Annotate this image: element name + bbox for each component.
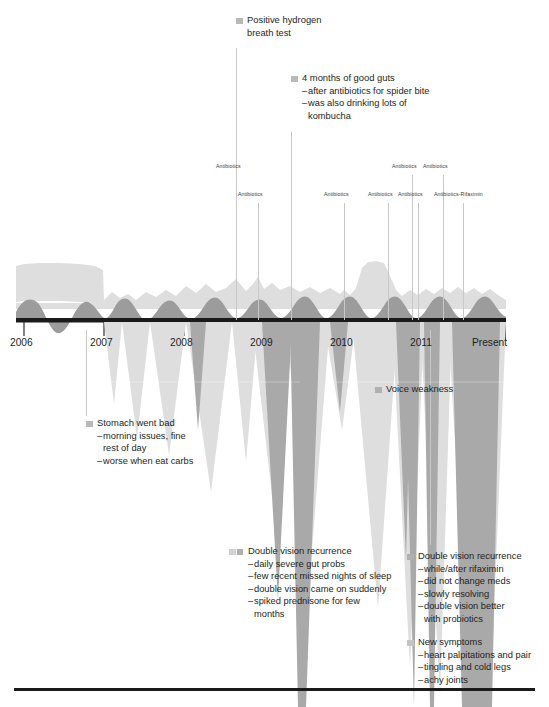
bullet-dash: – bbox=[248, 558, 253, 571]
annotation-header: 4 months of good guts bbox=[291, 72, 429, 85]
annotation-bullet: – daily severe gut probs bbox=[229, 558, 391, 571]
antibiotics-label-7: Antibiotics-Rifaximin bbox=[434, 191, 483, 197]
legend-swatch-icon bbox=[407, 554, 414, 561]
annotation-bullet: – achy joints bbox=[407, 674, 531, 687]
annotation-bullet-text: daily severe gut probs bbox=[254, 559, 345, 569]
annotation-bullet: – slowly resolving bbox=[407, 588, 522, 601]
annotation-header-text: 4 months of good guts bbox=[302, 72, 395, 83]
annotation-bullet-text: while/after rifaximin bbox=[424, 564, 504, 574]
axis-tick-label-2010: 2010 bbox=[330, 337, 353, 349]
annotation-bullet: – heart palpitations and pair bbox=[407, 649, 531, 662]
annotation-bullet-text: morning issues, fine bbox=[103, 431, 186, 441]
bullet-dash: – bbox=[418, 661, 423, 674]
annotation-bullet: – double vision came on suddenly bbox=[229, 583, 391, 596]
antibiotics-label-6: Antibiotics bbox=[423, 163, 448, 169]
bullet-dash: – bbox=[418, 588, 423, 601]
annotation-bullet-text: double vision came on suddenly bbox=[254, 584, 386, 594]
annotation-bullet-text: after antibiotics for spider bite bbox=[308, 86, 429, 96]
bullet-dash: – bbox=[418, 649, 423, 662]
time-axis-line bbox=[16, 318, 506, 323]
leader-line-antibiotic-2 bbox=[344, 203, 345, 320]
leader-line-antibiotic-0 bbox=[236, 175, 237, 320]
bullet-dash: – bbox=[302, 97, 307, 110]
axis-tick-label-2011: 2011 bbox=[410, 337, 432, 349]
annotation-header-text: Double vision recurrence bbox=[248, 545, 352, 556]
annotation-header-text: Voice weakness bbox=[386, 383, 453, 394]
annotation-bullet-text: heart palpitations and pair bbox=[424, 650, 531, 660]
annotation-continuation: rest of day bbox=[86, 442, 193, 455]
legend-swatch-icon bbox=[291, 76, 298, 83]
axis-tick-label-2007: 2007 bbox=[90, 337, 113, 349]
annotation-bullet-text: achy joints bbox=[424, 675, 468, 685]
leader-line-antibiotic-1 bbox=[258, 203, 259, 320]
annotation-header: Stomach went bad bbox=[86, 417, 193, 430]
bullet-dash: – bbox=[418, 674, 423, 687]
annotation-line-2: breath test bbox=[236, 27, 322, 40]
annotation-bullet: – double vision better bbox=[407, 600, 522, 613]
bullet-dash: – bbox=[97, 455, 102, 468]
bullet-dash: – bbox=[97, 430, 102, 443]
leader-line-stomach bbox=[86, 330, 87, 416]
legend-swatch-icon bbox=[229, 549, 236, 556]
annotation-continuation: months bbox=[229, 608, 391, 621]
annotation-stomach-went-bad: Stomach went bad – morning issues, fine … bbox=[86, 417, 193, 467]
bullet-dash: – bbox=[418, 575, 423, 588]
annotation-header: Double vision recurrence bbox=[407, 550, 522, 563]
annotation-double-vision-right: Double vision recurrence – while/after r… bbox=[407, 550, 522, 626]
annotation-bullet: – did not change meds bbox=[407, 575, 522, 588]
axis-tick-label-2006: 2006 bbox=[10, 337, 33, 349]
antibiotics-label-4: Antibiotics bbox=[392, 163, 417, 169]
antibiotics-label-0: Antibiotics bbox=[216, 163, 241, 169]
annotation-header: Voice weakness bbox=[375, 383, 453, 396]
bullet-dash: – bbox=[418, 600, 423, 613]
bullet-dash: – bbox=[248, 570, 253, 583]
axis-tick-label-2008: 2008 bbox=[170, 337, 193, 349]
annotation-bullet-text: was also drinking lots of bbox=[308, 98, 407, 108]
legend-swatch-icon bbox=[375, 387, 382, 394]
annotation-bullet: – tingling and cold legs bbox=[407, 661, 531, 674]
annotation-bullet: – after antibiotics for spider bite bbox=[291, 85, 429, 98]
annotation-bullet-text: spiked prednisone for few bbox=[254, 596, 360, 606]
annotation-new-symptoms: New symptoms – heart palpitations and pa… bbox=[407, 636, 531, 686]
bullet-dash: – bbox=[418, 563, 423, 576]
timeline-chart-canvas: Antibiotics Antibiotics Antibiotics Anti… bbox=[0, 0, 549, 707]
antibiotics-label-3: Antibiotics bbox=[368, 191, 393, 197]
antibiotics-label-2: Antibiotics bbox=[324, 191, 349, 197]
axis-tick-label-present: Present bbox=[472, 337, 507, 349]
annotation-continuation: with probiotics bbox=[407, 613, 522, 626]
annotation-bullet: – morning issues, fine bbox=[86, 430, 193, 443]
annotation-bullet: – spiked prednisone for few bbox=[229, 595, 391, 608]
leader-line-antibiotic-7 bbox=[463, 203, 464, 320]
legend-swatch-icon bbox=[86, 421, 93, 428]
annotation-bullet-text: few recent missed nights of sleep bbox=[254, 571, 391, 581]
legend-swatch-secondary-icon bbox=[237, 549, 244, 556]
axis-tick-label-2009: 2009 bbox=[250, 337, 273, 349]
annotation-bullet-text: double vision better bbox=[424, 601, 505, 611]
leader-line-antibiotic-3 bbox=[388, 203, 389, 320]
leader-line-antibiotic-5 bbox=[418, 203, 419, 320]
legend-swatch-icon bbox=[407, 640, 414, 647]
annotation-bullet-text: did not change meds bbox=[424, 576, 510, 586]
annotation-double-vision-left: Double vision recurrence – daily severe … bbox=[229, 545, 391, 621]
annotation-bullet-text: worse when eat carbs bbox=[103, 456, 193, 466]
annotation-header: Double vision recurrence bbox=[229, 545, 391, 558]
annotation-header: New symptoms bbox=[407, 636, 531, 649]
annotation-bullet: – was also drinking lots of bbox=[291, 97, 429, 110]
annotation-bullet: – worse when eat carbs bbox=[86, 455, 193, 468]
annotation-bullet-text: slowly resolving bbox=[424, 589, 489, 599]
annotation-header-text: New symptoms bbox=[418, 636, 482, 647]
annotation-bullet: – while/after rifaximin bbox=[407, 563, 522, 576]
annotation-header-text: Double vision recurrence bbox=[418, 550, 522, 561]
leader-line-good-guts bbox=[291, 132, 292, 320]
annotation-header-text: Stomach went bad bbox=[97, 417, 175, 428]
leader-line-double-vision-right bbox=[430, 330, 431, 545]
annotation-good-guts: 4 months of good guts – after antibiotic… bbox=[291, 72, 429, 122]
footer-rule bbox=[14, 688, 535, 691]
annotation-continuation: kombucha bbox=[291, 110, 429, 123]
antibiotics-label-5: Antibiotics bbox=[398, 191, 423, 197]
bullet-dash: – bbox=[248, 595, 253, 608]
annotation-bullet: – few recent missed nights of sleep bbox=[229, 570, 391, 583]
annotation-voice-weakness: Voice weakness bbox=[375, 383, 453, 396]
annotation-header-text: Positive hydrogen bbox=[247, 14, 322, 25]
annotation-positive-hydrogen: Positive hydrogen breath test bbox=[236, 14, 322, 39]
